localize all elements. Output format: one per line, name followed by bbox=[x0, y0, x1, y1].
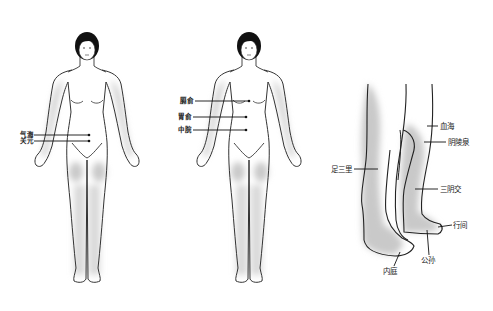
acupoint-label: 中脘 bbox=[178, 125, 192, 134]
acupoint-label: 血海 bbox=[440, 121, 455, 131]
acupoint-label: 足三里 bbox=[331, 165, 353, 174]
acupoint-label: 公孙 bbox=[421, 255, 436, 265]
acupoint-label: 阴陵泉 bbox=[448, 137, 470, 147]
figure-left: 气海 关元 bbox=[19, 32, 139, 282]
figure-middle bbox=[197, 32, 301, 282]
acupoint-label: 关元 bbox=[20, 136, 34, 145]
acupoint-label: 膈俞 bbox=[179, 96, 194, 105]
acupoint-diagram: 气海 关元 bbox=[0, 0, 493, 311]
acupoint-gongsun: 公孙 bbox=[421, 230, 436, 265]
face bbox=[79, 40, 95, 60]
acupoint-label: 内庭 bbox=[383, 266, 398, 276]
figure-legs: 血海 阴陵泉 足三里 三阴交 行间 公孙 内庭 bbox=[331, 84, 470, 276]
acupoint-label: 胃俞 bbox=[178, 112, 192, 121]
acupoint-guanyuan: 关元 bbox=[20, 136, 90, 145]
acupoint-label: 三阴交 bbox=[440, 184, 462, 194]
acupoint-xuehai: 血海 bbox=[427, 121, 455, 131]
acupoint-label: 行间 bbox=[453, 220, 467, 230]
